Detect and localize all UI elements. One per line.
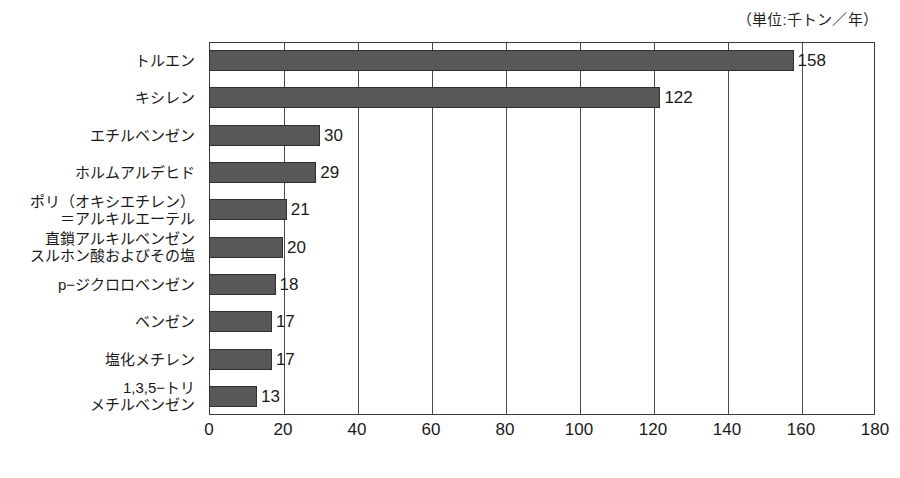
x-tick-label: 100: [565, 420, 593, 440]
bar-row: 17: [209, 340, 875, 377]
bar-row: 17: [209, 303, 875, 340]
bar-row: 158: [209, 42, 875, 79]
bar[interactable]: [209, 50, 794, 71]
bar[interactable]: [209, 199, 287, 220]
bar-row: 18: [209, 266, 875, 303]
bar-value-label: 29: [320, 164, 339, 181]
x-tick-label: 140: [713, 420, 741, 440]
x-tick-label: 60: [422, 420, 441, 440]
bar[interactable]: [209, 87, 660, 108]
bar-value-label: 17: [276, 313, 295, 330]
category-label: トルエン: [0, 52, 199, 69]
bar[interactable]: [209, 237, 283, 258]
x-tick-label: 0: [204, 420, 213, 440]
bar-value-label: 158: [798, 52, 826, 69]
bar-value-label: 30: [324, 127, 343, 144]
bar[interactable]: [209, 162, 316, 183]
x-tick-label: 80: [496, 420, 515, 440]
bar[interactable]: [209, 125, 320, 146]
category-label: ポリ（オキシエチレン） ＝アルキルエーテル: [0, 193, 199, 227]
category-axis-labels: トルエンキシレンエチルベンゼンホルムアルデヒドポリ（オキシエチレン） ＝アルキル…: [0, 42, 203, 415]
category-label: 1,3,5−トリ メチルベンゼン: [0, 379, 199, 413]
bar[interactable]: [209, 311, 272, 332]
bar-row: 29: [209, 154, 875, 191]
x-tick-label: 180: [861, 420, 889, 440]
x-tick-label: 160: [787, 420, 815, 440]
bar-chart: （単位:千トン／年） トルエンキシレンエチルベンゼンホルムアルデヒドポリ（オキシ…: [0, 0, 900, 478]
x-tick-label: 120: [639, 420, 667, 440]
bar-value-label: 21: [291, 201, 310, 218]
bar-row: 30: [209, 117, 875, 154]
category-label: キシレン: [0, 89, 199, 106]
category-label: p−ジクロロベンゼン: [0, 276, 199, 293]
bar[interactable]: [209, 349, 272, 370]
x-tick-label: 40: [348, 420, 367, 440]
category-label: 直鎖アルキルベンゼン スルホン酸およびその塩: [0, 230, 199, 264]
bar-row: 122: [209, 79, 875, 116]
bar-value-label: 122: [664, 89, 692, 106]
category-label: ホルムアルデヒド: [0, 164, 199, 181]
bar-value-label: 20: [287, 239, 306, 256]
bar-value-label: 13: [261, 388, 280, 405]
bar[interactable]: [209, 386, 257, 407]
bar-row: 20: [209, 229, 875, 266]
x-axis-tick-labels: 020406080100120140160180: [209, 420, 875, 448]
bar-row: 13: [209, 378, 875, 415]
bar[interactable]: [209, 274, 276, 295]
bar-rows: 1581223029212018171713: [209, 42, 875, 415]
category-label: エチルベンゼン: [0, 127, 199, 144]
category-label: 塩化メチレン: [0, 351, 199, 368]
bar-value-label: 18: [280, 276, 299, 293]
x-tick-label: 20: [274, 420, 293, 440]
unit-caption: （単位:千トン／年）: [737, 8, 878, 29]
bar-row: 21: [209, 191, 875, 228]
category-label: ベンゼン: [0, 313, 199, 330]
bar-value-label: 17: [276, 351, 295, 368]
